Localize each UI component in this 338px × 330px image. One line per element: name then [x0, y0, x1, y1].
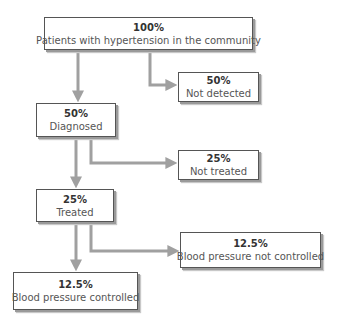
- node-label: Patients with hypertension in the commun…: [36, 34, 261, 47]
- node-label: Blood pressure controlled: [12, 291, 140, 304]
- node-community: 100% Patients with hypertension in the c…: [44, 17, 253, 50]
- node-label: Not detected: [186, 87, 251, 100]
- node-not-treated: 25% Not treated: [178, 150, 259, 180]
- node-label: Blood pressure not controlled: [177, 250, 324, 263]
- node-label: Not treated: [190, 165, 247, 178]
- node-treated: 25% Treated: [36, 189, 114, 222]
- node-not-detected: 50% Not detected: [178, 72, 259, 102]
- node-percent: 25%: [207, 152, 231, 165]
- node-percent: 100%: [133, 21, 164, 34]
- node-percent: 12.5%: [58, 278, 93, 291]
- node-percent: 50%: [207, 74, 231, 87]
- arrow-diagnosed-to-not-treated: [91, 137, 172, 163]
- node-label: Treated: [56, 206, 93, 219]
- arrow-treated-to-bp-not-controlled: [91, 222, 174, 251]
- node-label: Diagnosed: [49, 120, 102, 133]
- node-bp-controlled: 12.5% Blood pressure controlled: [13, 272, 138, 310]
- node-percent: 25%: [63, 193, 87, 206]
- arrow-community-to-not-detected: [150, 50, 172, 85]
- node-diagnosed: 50% Diagnosed: [36, 103, 116, 137]
- node-percent: 12.5%: [233, 237, 268, 250]
- hypertension-flowchart: 100% Patients with hypertension in the c…: [0, 0, 338, 330]
- node-bp-not-controlled: 12.5% Blood pressure not controlled: [180, 232, 321, 268]
- node-percent: 50%: [64, 107, 88, 120]
